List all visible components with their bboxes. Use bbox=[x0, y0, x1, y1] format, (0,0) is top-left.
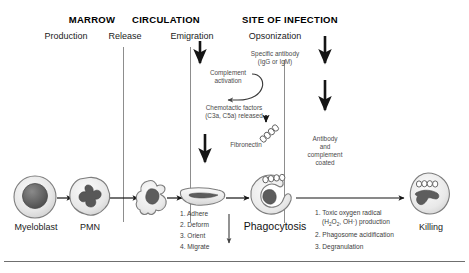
cell-label-killing: Killing bbox=[404, 222, 458, 232]
cell-label-phagocytosis: Phagocytosis bbox=[237, 220, 313, 232]
bacteria-chain-icon bbox=[258, 120, 284, 144]
migration-step-3: 3. Orient bbox=[180, 232, 205, 241]
pmn-cell-icon bbox=[68, 176, 112, 220]
cell-label-pmn: PMN bbox=[66, 222, 114, 232]
annotation-coated-line3: complement bbox=[292, 151, 358, 159]
killing-cell-icon bbox=[406, 172, 454, 220]
killing-step-2: 2. Phagosome acidification bbox=[315, 231, 394, 240]
killing-step-1: 1. Toxic oxygen radical bbox=[315, 209, 382, 218]
arrow-layer bbox=[0, 0, 469, 273]
annotation-specific-antibody-line2: (IgG or IgM) bbox=[229, 58, 321, 66]
annotation-coated-line4: coated bbox=[292, 159, 358, 167]
annotation-specific-antibody-line1: Specific antibody bbox=[229, 50, 321, 58]
cell-label-myeloblast: Myeloblast bbox=[2, 222, 70, 232]
myeloblast-cell-icon bbox=[12, 174, 60, 222]
annotation-chemotactic-line1: Chemotactic factors bbox=[186, 104, 282, 112]
migration-step-4: 4. Migrate bbox=[180, 243, 209, 252]
bottom-divider bbox=[4, 261, 465, 262]
adherent-neutrophil-icon bbox=[180, 186, 228, 208]
formula-text: (H2O2, OH·) production bbox=[322, 218, 390, 225]
annotation-coated-line1: Antibody bbox=[292, 135, 358, 143]
migrating-neutrophil-icon bbox=[135, 179, 171, 217]
annotation-coated-line2: and bbox=[292, 143, 358, 151]
annotation-complement-line2: activation bbox=[196, 77, 260, 85]
killing-step-3: 3. Degranulation bbox=[315, 243, 363, 252]
annotation-complement-line1: Complement bbox=[196, 69, 260, 77]
diagram-canvas: MARROW CIRCULATION SITE OF INFECTION Pro… bbox=[0, 0, 469, 273]
annotation-chemotactic-line2: (C3a, C5a) released bbox=[186, 112, 282, 120]
killing-step-1-formula: (H2O2, OH·) production bbox=[322, 218, 390, 230]
migration-step-1: 1. Adhere bbox=[180, 210, 208, 219]
migration-step-2: 2. Deform bbox=[180, 221, 209, 230]
phagocytosis-cell-icon bbox=[248, 173, 298, 219]
